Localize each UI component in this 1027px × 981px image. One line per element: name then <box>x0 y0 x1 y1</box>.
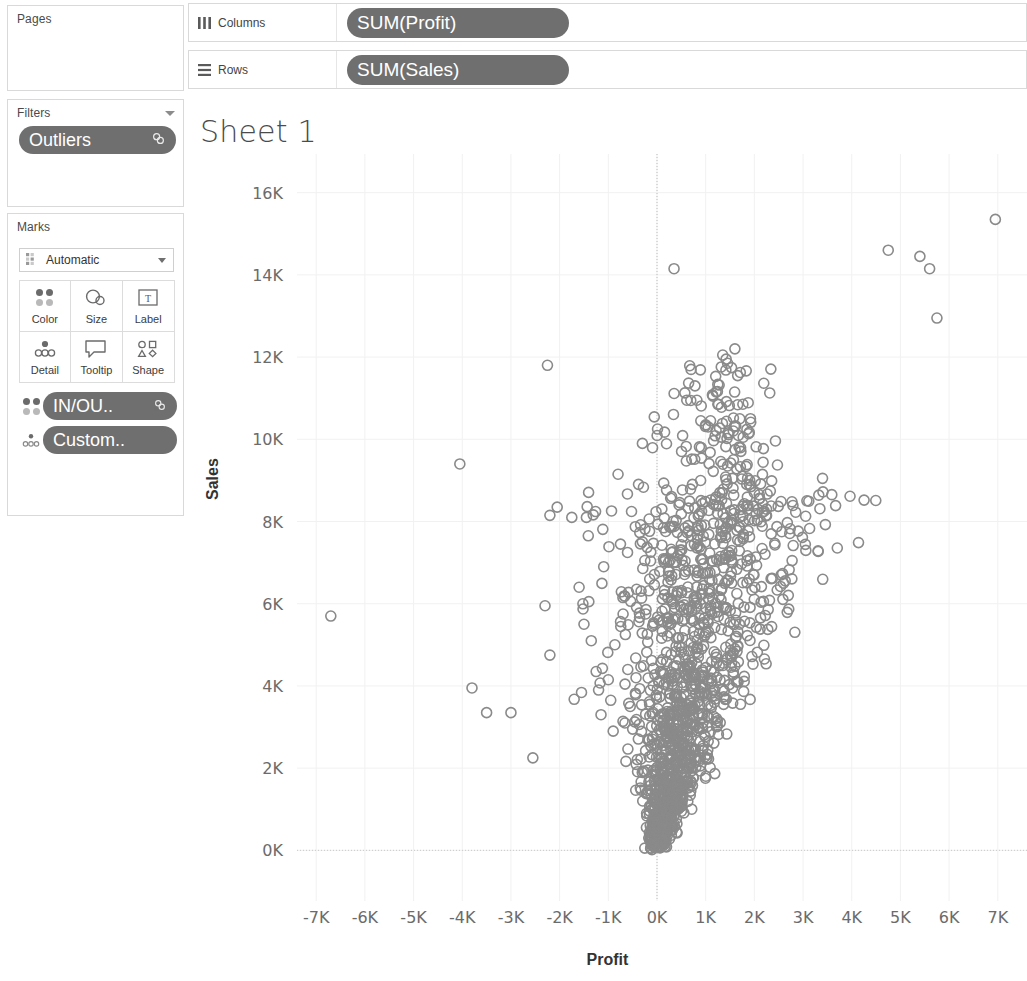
worksheet-view: Columns SUM(Profit) Rows SUM(Sales) <box>188 0 1027 981</box>
marks-buttons-grid: Color Size T La <box>19 280 174 382</box>
x-tick-label: -1K <box>595 908 621 927</box>
marks-type-dropdown[interactable]: Automatic <box>19 248 174 272</box>
x-tick-label: -2K <box>546 908 572 927</box>
marks-button-label-label: Label <box>135 313 162 325</box>
scatter-plot[interactable] <box>188 0 1027 981</box>
y-tick-label: 10K <box>223 430 283 449</box>
x-tick-label: -4K <box>449 908 475 927</box>
label-icon: T <box>138 287 158 309</box>
y-tick-label: 6K <box>223 595 283 614</box>
filters-caret-icon[interactable] <box>165 111 175 116</box>
x-tick-label: -7K <box>303 908 329 927</box>
marks-button-detail[interactable]: Detail <box>19 331 72 383</box>
x-tick-label: 7K <box>987 908 1008 927</box>
detail-icon <box>32 338 58 360</box>
tooltip-icon <box>84 338 108 360</box>
filter-link-icon[interactable] <box>151 131 166 149</box>
tableau-worksheet: Pages Filters Outliers Marks <box>0 0 1027 981</box>
calculation-icon[interactable] <box>153 398 167 415</box>
x-tick-label: 6K <box>939 908 960 927</box>
x-tick-label: -3K <box>498 908 524 927</box>
marks-layer <box>326 214 1001 854</box>
marks-card-title: Marks <box>8 214 183 234</box>
pages-card[interactable]: Pages <box>7 5 184 91</box>
x-tick-label: 0K <box>647 908 668 927</box>
filter-pill-outliers[interactable]: Outliers <box>19 126 176 154</box>
left-shelf-panel: Pages Filters Outliers Marks <box>0 0 186 981</box>
y-tick-label: 8K <box>223 513 283 532</box>
filter-pill-label: Outliers <box>29 131 145 149</box>
chevron-down-icon[interactable] <box>158 258 166 263</box>
x-tick-label: -5K <box>400 908 426 927</box>
marks-button-shape-label: Shape <box>132 364 164 376</box>
marks-pill-row-color[interactable]: IN/OU.. <box>19 392 177 420</box>
y-tick-label: 0K <box>223 841 283 860</box>
x-axis-title: Profit <box>188 951 1027 969</box>
y-tick-label: 4K <box>223 677 283 696</box>
y-tick-label: 16K <box>223 184 283 203</box>
size-icon <box>84 287 108 309</box>
color-icon <box>36 287 53 309</box>
y-axis-title: Sales <box>204 458 222 500</box>
x-tick-label: -6K <box>352 908 378 927</box>
x-tick-label: 2K <box>744 908 765 927</box>
marks-button-label[interactable]: T Label <box>122 280 175 332</box>
marks-button-tooltip[interactable]: Tooltip <box>70 331 123 383</box>
marks-button-tooltip-label: Tooltip <box>81 364 113 376</box>
marks-pill-in-out[interactable]: IN/OU.. <box>43 392 177 420</box>
marks-pills-list: IN/OU.. <box>19 392 177 460</box>
marks-button-color-label: Color <box>32 313 58 325</box>
y-tick-label: 14K <box>223 266 283 285</box>
marks-type-label: Automatic <box>46 253 99 267</box>
marks-pill-row-detail[interactable]: Custom.. <box>19 426 177 454</box>
detail-icon <box>19 432 43 449</box>
x-tick-label: 3K <box>793 908 814 927</box>
color-icon <box>19 398 43 415</box>
y-tick-label: 12K <box>223 348 283 367</box>
marks-button-detail-label: Detail <box>31 364 59 376</box>
x-tick-label: 4K <box>841 908 862 927</box>
x-tick-label: 5K <box>890 908 911 927</box>
marks-button-shape[interactable]: Shape <box>122 331 175 383</box>
automatic-marks-icon <box>26 253 40 268</box>
pages-card-title: Pages <box>8 6 183 26</box>
x-tick-label: 1K <box>695 908 716 927</box>
marks-pill-custom-label: Custom.. <box>53 431 167 449</box>
shape-icon <box>135 338 161 360</box>
marks-button-size[interactable]: Size <box>70 280 123 332</box>
svg-text:T: T <box>145 293 151 304</box>
filters-card-title: Filters <box>8 100 183 120</box>
marks-button-size-label: Size <box>86 313 107 325</box>
y-tick-label: 2K <box>223 759 283 778</box>
marks-button-color[interactable]: Color <box>19 280 72 332</box>
marks-card[interactable]: Marks Automatic <box>7 213 184 516</box>
marks-pill-custom[interactable]: Custom.. <box>43 426 177 454</box>
filters-card[interactable]: Filters Outliers <box>7 99 184 207</box>
marks-pill-in-out-label: IN/OU.. <box>53 397 147 415</box>
